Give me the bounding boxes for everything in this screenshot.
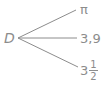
mixed-number-whole: 3: [80, 64, 88, 77]
fraction-denominator: 2: [89, 71, 97, 82]
tree-diagram: D π 3,9 3 1 2: [0, 0, 105, 91]
fraction-numerator: 1: [89, 59, 97, 71]
branch-label-3-half: 3 1 2: [80, 59, 98, 82]
origin-label: D: [4, 32, 15, 45]
branch-line-3-half: [18, 38, 78, 67]
branch-label-pi: π: [80, 3, 88, 16]
branch-line-pi: [18, 10, 76, 38]
branch-label-3-9: 3,9: [80, 32, 101, 45]
fraction: 1 2: [89, 59, 97, 82]
